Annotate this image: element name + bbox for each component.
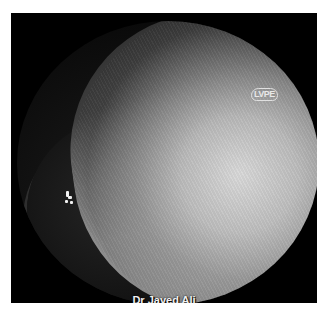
logo-watermark: LVPE: [251, 88, 278, 101]
image-credit: Dr Javed Ali: [11, 294, 317, 303]
circular-scope-view: [17, 21, 317, 303]
light-reflection: [64, 191, 74, 205]
endoscopic-image-frame: LVPE Dr Javed Ali: [11, 13, 317, 303]
